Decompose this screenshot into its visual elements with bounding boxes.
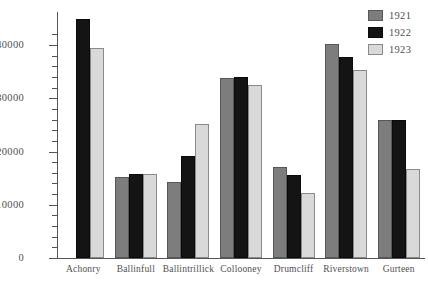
y-axis-ticks: 010000200003000040000 (0, 0, 57, 290)
bar (378, 120, 392, 258)
y-tick-label: 40000 (0, 40, 24, 50)
y-tick-major (49, 45, 57, 46)
bar (143, 174, 157, 258)
y-tick-major (49, 205, 57, 206)
bar (220, 78, 234, 258)
legend-label: 1922 (389, 27, 411, 38)
bar (195, 124, 209, 258)
legend-item[interactable]: 1923 (368, 42, 426, 57)
bar (325, 44, 339, 258)
bar (90, 48, 104, 258)
bar (353, 70, 367, 259)
y-tick-label: 30000 (0, 93, 24, 103)
legend-swatch-icon (368, 44, 383, 55)
y-tick-label: 10000 (0, 200, 24, 210)
bar (406, 169, 420, 258)
bar (301, 193, 315, 258)
bar-group (220, 8, 262, 258)
legend-label: 1921 (389, 10, 411, 21)
x-tick-label: Riverstown (323, 264, 369, 275)
legend-label: 1923 (389, 44, 411, 55)
legend-swatch-icon (368, 10, 383, 21)
bar (76, 19, 90, 258)
x-tick-label: Ballintrillick (163, 264, 214, 275)
x-tick-label: Drumcliff (274, 264, 314, 275)
bar-group (115, 8, 157, 258)
x-tick-label: Ballinfull (117, 264, 155, 275)
bar (181, 156, 195, 258)
bar-group (273, 8, 315, 258)
bar-group (167, 8, 209, 258)
bar (392, 120, 406, 258)
x-tick-label: Collooney (220, 264, 261, 275)
bar (234, 77, 248, 258)
legend-item[interactable]: 1922 (368, 25, 426, 40)
bar-group (62, 8, 104, 258)
x-tick-label: Gurteen (383, 264, 415, 275)
bar (115, 177, 129, 258)
y-tick-major (49, 258, 57, 259)
bar (129, 174, 143, 258)
bar (273, 167, 287, 258)
bar (287, 175, 301, 258)
y-tick-major (49, 98, 57, 99)
legend-swatch-icon (368, 27, 383, 38)
legend-item[interactable]: 1921 (368, 8, 426, 23)
y-tick-label: 0 (18, 253, 24, 263)
bar (339, 57, 353, 258)
chart-legend: 192119221923 (368, 8, 426, 59)
y-tick-major (49, 152, 57, 153)
x-axis-line (57, 258, 425, 259)
bar (167, 182, 181, 258)
bar-chart: 010000200003000040000 AchonryBallinfullB… (0, 0, 428, 290)
bar (248, 85, 262, 258)
bar-group (325, 8, 367, 258)
x-tick-label: Achonry (66, 264, 101, 275)
y-tick-label: 20000 (0, 147, 24, 157)
